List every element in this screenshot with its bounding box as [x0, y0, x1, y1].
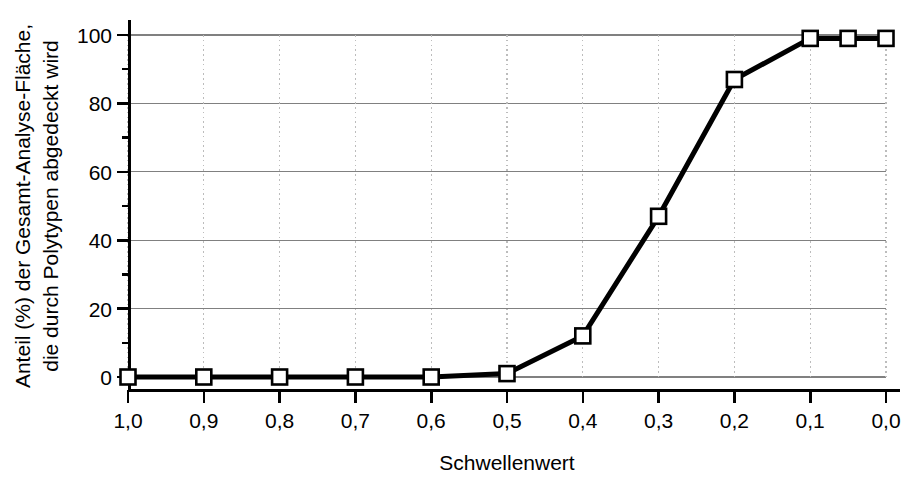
x-tick-label-0-3: 0,3	[644, 409, 673, 432]
x-tick-label-0-0: 0,0	[871, 409, 900, 432]
x-tick-label-0-7: 0,7	[341, 409, 370, 432]
y-tick-label-100: 100	[77, 24, 112, 47]
data-point-0-4	[575, 328, 590, 343]
x-tick-label-0-2: 0,2	[720, 409, 749, 432]
data-point-0-9	[196, 370, 211, 385]
line-chart: 100 80 60 40 20 0 1,0 0,9 0,8 0,7 0,6 0,…	[0, 0, 915, 488]
x-tick-label-0-9: 0,9	[189, 409, 218, 432]
chart-figure: 100 80 60 40 20 0 1,0 0,9 0,8 0,7 0,6 0,…	[0, 0, 915, 488]
y-tick-label-40: 40	[89, 229, 112, 252]
data-point-1-0	[121, 370, 136, 385]
y-tick-label-60: 60	[89, 161, 112, 184]
data-point-0-0	[879, 31, 894, 46]
x-tick-label-0-4: 0,4	[568, 409, 598, 432]
x-axis-title: Schwellenwert	[439, 451, 575, 474]
data-point-0-6	[424, 370, 439, 385]
x-tick-label-0-5: 0,5	[492, 409, 521, 432]
data-point-0-1	[803, 31, 818, 46]
x-tick-label-0-8: 0,8	[265, 409, 294, 432]
x-tick-label-0-1: 0,1	[796, 409, 825, 432]
x-tick-label-0-6: 0,6	[417, 409, 446, 432]
y-axis-title-line-1: Anteil (%) der Gesamt-Analyse-Fläche,	[11, 24, 34, 388]
data-point-0-3	[651, 209, 666, 224]
data-point-0-2	[727, 72, 742, 87]
data-point-0-5	[500, 366, 515, 381]
y-tick-label-0: 0	[100, 366, 112, 389]
y-axis-title-line-2: die durch Polytypen abgedeckt wird	[39, 40, 62, 372]
data-point-0-05	[841, 31, 856, 46]
x-tick-label-1-0: 1,0	[113, 409, 142, 432]
data-point-0-8	[272, 370, 287, 385]
y-tick-label-20: 20	[89, 298, 112, 321]
data-point-0-7	[348, 370, 363, 385]
y-tick-label-80: 80	[89, 92, 112, 115]
